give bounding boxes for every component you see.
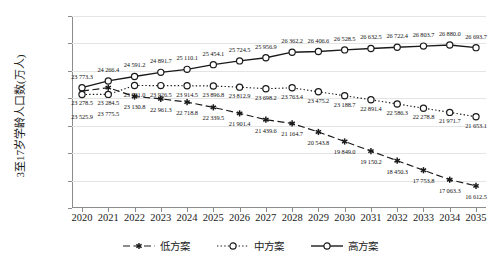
data-point-low-2031 [368,148,373,154]
data-point-high-2022 [131,73,137,79]
point-label-high-2020: 23 773.3 [71,73,93,80]
point-label-high-2024: 25 110.1 [176,54,197,61]
point-label-low-2023: 22 961.3 [150,106,172,113]
point-label-medium-2020: 23 278.5 [71,99,93,106]
data-point-medium-2024 [184,83,190,89]
point-label-high-2022: 24 591.2 [124,61,146,68]
point-label-low-2027: 21 439.6 [255,127,277,134]
point-label-high-2026: 25 724.5 [229,46,251,53]
data-point-medium-2033 [420,105,426,111]
data-point-high-2032 [394,44,400,50]
data-point-low-2033 [421,167,426,173]
legend-item-medium[interactable]: 中方案 [216,238,284,253]
point-label-low-2022: 23 130.8 [124,103,146,110]
point-label-high-2023: 24 891.7 [150,57,172,64]
data-point-medium-2025 [210,83,216,89]
legend-label-low: 低方案 [160,238,190,253]
point-label-medium-2026: 23 812.9 [229,92,251,99]
point-label-high-2032: 26 722.4 [386,32,408,39]
x-tick-label: 2035 [456,212,496,223]
legend-label-medium: 中方案 [254,238,284,253]
point-label-low-2033: 17 753.8 [413,177,435,184]
point-label-medium-2028: 23 763.4 [281,93,303,100]
point-label-high-2030: 26 528.5 [334,35,356,42]
plot-area: 29 000.027 000.025 000.023 000.021 000.0… [72,16,486,208]
point-label-high-2029: 26 406.6 [308,37,330,44]
data-point-medium-2035 [473,114,479,120]
y-axis-title: 3至17岁学龄人口数(万人) [11,11,27,221]
point-label-low-2031: 19 150.2 [360,158,382,165]
data-point-medium-2028 [289,85,295,91]
data-point-high-2035 [473,45,479,51]
point-label-high-2033: 26 803.7 [413,31,435,38]
point-label-low-2032: 18 450.3 [386,168,408,175]
data-point-low-2030 [342,138,347,144]
point-label-low-2026: 21 901.4 [229,120,251,127]
data-point-medium-2032 [394,101,400,107]
point-label-low-2030: 19 849.0 [334,148,356,155]
data-point-high-2031 [368,45,374,51]
point-label-high-2027: 25 956.9 [255,43,277,50]
point-label-medium-2031: 22 891.4 [360,105,382,112]
data-point-high-2028 [289,49,295,55]
point-label-low-2028: 21 164.7 [281,130,303,137]
chart-container: 3至17岁学龄人口数(万人) 29 000.027 000.025 000.02… [0,0,500,259]
point-label-medium-2027: 23 698.2 [255,94,277,101]
data-point-medium-2022 [131,82,137,88]
point-label-medium-2032: 22 586.3 [386,109,408,116]
point-label-high-2035: 26 693.7 [465,33,487,40]
data-point-medium-2030 [342,93,348,99]
data-point-medium-2029 [315,89,321,95]
data-point-high-2023 [158,69,164,75]
data-point-high-2020 [79,85,85,91]
point-label-high-2034: 26 880.0 [439,30,461,37]
point-label-medium-2030: 23 188.7 [334,101,356,108]
point-label-medium-2021: 23 284.5 [97,99,119,106]
data-point-high-2026 [237,58,243,64]
data-point-high-2024 [184,66,190,72]
data-point-medium-2021 [105,91,111,97]
data-point-medium-2023 [158,82,164,88]
point-label-medium-2022: 23 931.0 [124,91,146,98]
point-label-medium-2029: 23 475.2 [308,97,330,104]
point-label-low-2021: 23 775.5 [97,110,119,117]
data-point-medium-2031 [368,97,374,103]
point-label-low-2020: 23 525.9 [71,113,93,120]
data-point-medium-2026 [237,84,243,90]
legend-key-medium [216,240,250,252]
point-label-high-2021: 24 266.4 [97,66,119,73]
data-point-high-2034 [447,42,453,48]
data-point-medium-2020 [79,91,85,97]
point-label-low-2029: 20 543.8 [308,139,330,146]
data-point-high-2027 [263,55,269,61]
data-point-high-2025 [210,62,216,68]
legend-item-high[interactable]: 高方案 [310,238,378,253]
point-label-low-2034: 17 063.3 [439,187,461,194]
point-label-medium-2033: 22 278.8 [413,113,435,120]
data-point-high-2029 [315,48,321,54]
data-point-medium-2027 [263,86,269,92]
point-label-low-2024: 22 718.8 [176,109,198,116]
legend-item-low[interactable]: 低方案 [122,238,190,253]
data-point-low-2029 [316,129,321,135]
legend-label-high: 高方案 [348,238,378,253]
chart-legend: 低方案中方案高方案 [0,238,500,253]
point-label-high-2025: 25 454.1 [203,50,225,57]
point-label-low-2025: 22 339.5 [203,114,225,121]
point-label-high-2031: 26 632.5 [360,33,382,40]
y-tick-mark [68,208,72,209]
point-label-medium-2025: 23 896.8 [203,91,225,98]
point-label-medium-2023: 23 926.5 [150,91,172,98]
legend-key-low [122,240,156,252]
data-point-high-2030 [342,47,348,53]
legend-key-high [310,240,344,252]
point-label-medium-2034: 21 971.7 [439,117,461,124]
data-point-low-2032 [395,158,400,164]
data-point-high-2033 [420,43,426,49]
series-line-low [82,88,476,186]
point-label-medium-2035: 21 653.1 [465,122,487,129]
data-point-medium-2034 [447,109,453,115]
point-label-high-2028: 26 362.2 [281,37,303,44]
data-point-high-2021 [105,78,111,84]
point-label-medium-2024: 23 914.5 [176,91,198,98]
